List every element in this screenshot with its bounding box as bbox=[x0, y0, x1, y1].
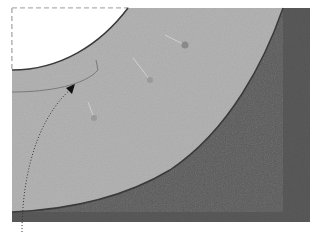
sewing-illustration bbox=[0, 0, 321, 236]
